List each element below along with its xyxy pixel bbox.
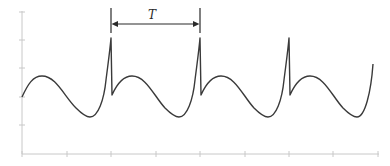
period-marker: T <box>111 8 200 33</box>
periodic-waveform <box>22 38 373 117</box>
period-label: T <box>148 8 157 22</box>
arrow-right-icon <box>193 21 200 27</box>
arrow-left-icon <box>112 21 119 27</box>
waveform-diagram: T <box>0 0 390 166</box>
